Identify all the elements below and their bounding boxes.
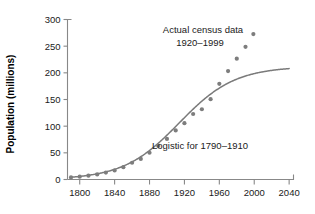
axes-group: 050100150200250300 180018401880192019602…	[45, 14, 300, 198]
x-tick-label: 2040	[279, 187, 300, 198]
data-point	[200, 107, 204, 111]
data-point	[243, 45, 247, 49]
data-point	[69, 175, 73, 179]
data-point	[121, 165, 125, 169]
y-tick-label: 0	[55, 174, 60, 185]
logistic-annotation: Logistic for 1790–1910	[152, 140, 248, 151]
y-tick-label: 250	[45, 41, 61, 52]
y-axis-ticks	[64, 20, 68, 180]
data-point	[235, 57, 239, 61]
data-point	[209, 97, 213, 101]
x-tick-label: 1920	[174, 187, 195, 198]
data-point	[182, 121, 186, 125]
data-point	[226, 69, 230, 73]
census-data-points	[69, 32, 256, 180]
y-tick-label: 300	[45, 14, 61, 25]
x-axis-line	[68, 175, 294, 180]
x-tick-label: 1880	[139, 187, 160, 198]
x-tick-label: 2000	[244, 187, 265, 198]
y-tick-label: 50	[50, 147, 61, 158]
data-point	[95, 172, 99, 176]
data-point	[174, 128, 178, 132]
x-axis-ticks	[80, 180, 289, 185]
population-logistic-chart: 050100150200250300 180018401880192019602…	[0, 0, 315, 214]
y-axis-tick-labels: 050100150200250300	[45, 14, 61, 185]
x-tick-label: 1840	[104, 187, 125, 198]
data-point	[86, 174, 90, 178]
y-axis-title: Population (millions)	[5, 55, 16, 154]
data-point	[147, 151, 151, 155]
x-tick-label: 1960	[209, 187, 230, 198]
data-point	[251, 32, 255, 36]
y-tick-label: 150	[45, 94, 61, 105]
data-point	[130, 161, 134, 165]
chart-canvas: 050100150200250300 180018401880192019602…	[0, 0, 315, 214]
data-point	[191, 112, 195, 116]
census-annotation-line1: Actual census data	[163, 24, 244, 35]
data-point	[217, 82, 221, 86]
y-axis-line	[68, 20, 72, 180]
data-point	[139, 157, 143, 161]
logistic-curve	[71, 69, 289, 178]
y-tick-label: 200	[45, 67, 61, 78]
data-point	[78, 175, 82, 179]
x-tick-label: 1800	[69, 187, 90, 198]
x-axis-tick-labels: 1800184018801920196020002040	[69, 187, 300, 198]
data-point	[113, 168, 117, 172]
y-tick-label: 100	[45, 121, 61, 132]
data-point	[104, 171, 108, 175]
census-annotation-line2: 1920–1999	[176, 37, 224, 48]
